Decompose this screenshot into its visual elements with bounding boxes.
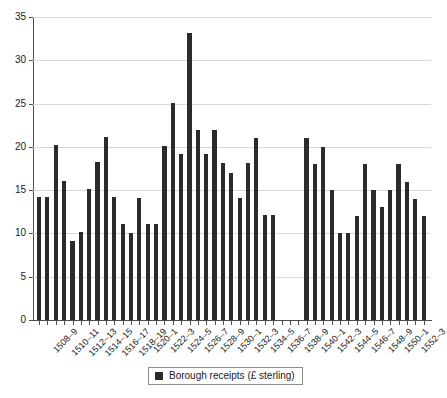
bar: [104, 137, 108, 320]
bar: [422, 216, 426, 320]
bar: [405, 182, 409, 321]
bar: [271, 215, 275, 320]
plot-area: [33, 17, 431, 320]
bar: [70, 241, 74, 320]
y-axis-tick-label: 35: [15, 12, 26, 22]
y-axis-tick: [29, 277, 33, 278]
y-axis-tick: [29, 17, 33, 18]
y-axis-tick-label: 5: [20, 272, 26, 282]
bar: [129, 233, 133, 320]
bar: [304, 138, 308, 320]
bar: [388, 190, 392, 320]
bar: [54, 145, 58, 320]
y-axis-tick-label: 20: [15, 142, 26, 152]
y-axis-tick-label: 0: [20, 315, 26, 325]
bar: [355, 216, 359, 320]
bar: [171, 103, 175, 320]
bar: [212, 130, 216, 321]
bar: [112, 197, 116, 320]
y-axis-tick-label: 25: [15, 99, 26, 109]
bar: [254, 138, 258, 320]
bar: [87, 189, 91, 320]
y-axis-tick: [29, 60, 33, 61]
y-axis-tick: [29, 104, 33, 105]
bar: [380, 207, 384, 320]
bar: [321, 147, 325, 320]
y-axis-tick-label: 10: [15, 228, 26, 238]
y-axis-tick-label: 15: [15, 185, 26, 195]
bar: [146, 224, 150, 320]
bar: [187, 33, 191, 320]
y-axis-tick-label: 30: [15, 55, 26, 65]
y-axis-tick: [29, 190, 33, 191]
bar: [313, 164, 317, 320]
bar: [37, 197, 41, 320]
bar: [229, 173, 233, 320]
bar: [45, 197, 49, 320]
bar: [62, 181, 66, 320]
y-axis-tick: [29, 147, 33, 148]
bar: [413, 199, 417, 320]
bar: [204, 154, 208, 320]
bar: [162, 146, 166, 320]
bar: [154, 224, 158, 320]
bar-series: [33, 17, 431, 320]
bar: [330, 190, 334, 320]
bar: [179, 154, 183, 320]
bar: [338, 233, 342, 320]
bar: [396, 164, 400, 320]
legend-swatch-icon: [155, 372, 163, 380]
bar: [346, 233, 350, 320]
bar: [121, 224, 125, 320]
bar: [238, 198, 242, 320]
bar: [371, 190, 375, 320]
bar: [79, 232, 83, 320]
bar: [263, 215, 267, 320]
bar: [95, 162, 99, 320]
legend-label: Borough receipts (£ sterling): [169, 370, 295, 381]
bar: [221, 163, 225, 320]
y-axis-tick: [29, 233, 33, 234]
chart-legend: Borough receipts (£ sterling): [148, 367, 303, 385]
x-axis-line: [33, 320, 432, 321]
bar: [246, 163, 250, 320]
bar: [137, 198, 141, 320]
bar: [196, 130, 200, 321]
y-axis-tick: [29, 320, 33, 321]
bar: [363, 164, 367, 320]
